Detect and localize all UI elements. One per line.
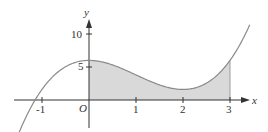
x-tick-label-3: 3	[226, 103, 232, 115]
origin-label: O	[79, 102, 87, 114]
x-axis-arrow-icon	[241, 97, 250, 103]
x-tick-label-1: 1	[133, 103, 139, 115]
y-tick-label-5: 5	[78, 60, 84, 72]
x-tick-label-2: 2	[180, 103, 186, 115]
shaded-area-region	[89, 60, 230, 100]
y-tick-label-10: 10	[71, 28, 83, 40]
function-graph: x y O -1 1 2 3 5 10	[0, 0, 268, 132]
y-axis-arrow-icon	[86, 19, 92, 28]
x-tick-label-neg1: -1	[36, 103, 45, 115]
y-axis-label: y	[83, 6, 89, 18]
x-axis-label: x	[251, 94, 257, 106]
